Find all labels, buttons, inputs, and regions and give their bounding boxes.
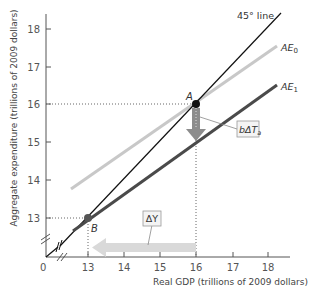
x-axis-title: Real GDP (trillions of 2009 dollars): [153, 277, 308, 287]
svg-text:14: 14: [27, 175, 40, 186]
delta-t-arrow: [186, 108, 206, 141]
svg-text:17: 17: [27, 62, 40, 73]
point-b: [84, 214, 92, 222]
svg-text:13: 13: [82, 262, 95, 273]
point-a-label: A: [185, 91, 193, 102]
x-ticks: [88, 252, 268, 257]
svg-text:16: 16: [27, 99, 40, 110]
y-axis-title: Aggregate expenditure (trillions of 2009…: [9, 9, 19, 226]
chart: Aggregate expenditure (trillions of 2009…: [0, 0, 310, 298]
ae1-label: AE1: [280, 81, 298, 94]
line-45-label: 45° line: [237, 10, 274, 21]
delta-t-label-box: bΔTa: [237, 121, 261, 137]
ae1-line: [73, 85, 277, 231]
svg-text:18: 18: [27, 24, 40, 35]
x-tick-labels: 0 13 14 15 16 17 18: [40, 262, 274, 273]
svg-text:14: 14: [118, 262, 131, 273]
svg-text:15: 15: [154, 262, 167, 273]
line-45-break: [56, 240, 62, 252]
delta-y-label-box: ΔY: [143, 211, 161, 226]
svg-text:15: 15: [27, 137, 40, 148]
svg-text:13: 13: [27, 213, 40, 224]
delta-y-arrow: [92, 238, 196, 257]
ae0-label: AE0: [280, 42, 298, 55]
delta-y-pointer: [148, 225, 152, 245]
y-ticks: [46, 29, 51, 218]
origin-label: 0: [40, 262, 46, 273]
svg-text:16: 16: [190, 262, 203, 273]
point-a: [192, 100, 200, 108]
point-b-label: B: [91, 223, 98, 234]
svg-text:ΔY: ΔY: [146, 213, 158, 224]
svg-text:17: 17: [227, 262, 240, 273]
svg-text:18: 18: [262, 262, 275, 273]
ae0-line: [71, 46, 277, 189]
y-tick-labels: 18 17 16 15 14 13: [27, 24, 40, 224]
